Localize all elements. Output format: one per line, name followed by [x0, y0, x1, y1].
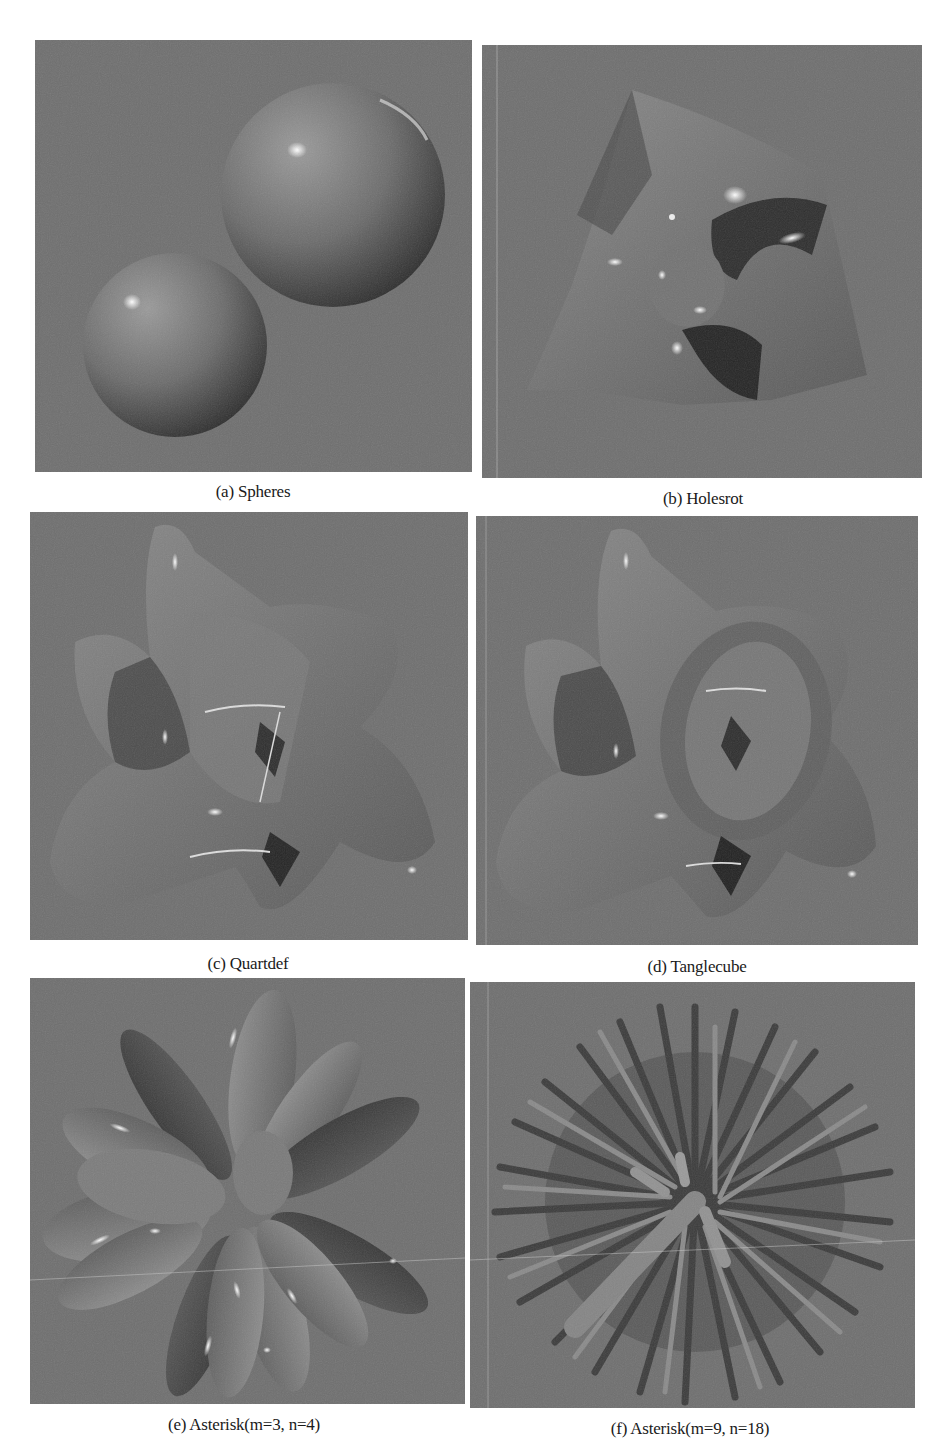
caption-e: (e) Asterisk(m=3, n=4)	[168, 1415, 320, 1435]
caption-d: (d) Tanglecube	[647, 957, 746, 977]
caption-f: (f) Asterisk(m=9, n=18)	[611, 1419, 770, 1439]
holesrot-render	[482, 45, 922, 478]
panel-c-quartdef	[30, 512, 468, 940]
panel-e-asterisk-m3-n4	[30, 978, 465, 1404]
asterisk-m9-n18-render	[470, 982, 915, 1408]
caption-b: (b) Holesrot	[663, 489, 743, 509]
quartdef-render	[30, 512, 468, 940]
caption-a: (a) Spheres	[216, 482, 291, 502]
tanglecube-render	[476, 516, 918, 945]
panel-d-tanglecube	[476, 516, 918, 945]
caption-c: (c) Quartdef	[207, 954, 288, 974]
asterisk-m3-n4-render	[30, 978, 465, 1404]
panel-a-spheres	[35, 40, 472, 472]
spheres-render	[35, 40, 472, 472]
panel-b-holesrot	[482, 45, 922, 478]
panel-f-asterisk-m9-n18	[470, 982, 915, 1408]
